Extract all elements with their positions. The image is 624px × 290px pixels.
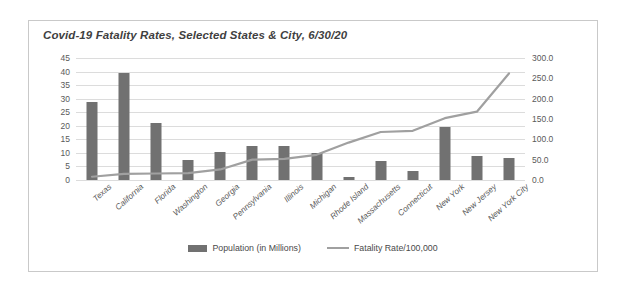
right-axis-tick-label: 150.0 <box>532 115 553 124</box>
chart-legend: Population (in Millions) Fatality Rate/1… <box>29 243 597 253</box>
right-axis-tick-label: 200.0 <box>532 95 553 104</box>
category-label: Florida <box>154 183 178 206</box>
left-axis-tick-label: 0 <box>65 176 70 185</box>
left-axis-tick-label: 15 <box>61 135 70 144</box>
bar-swatch-icon <box>188 245 207 252</box>
line-series <box>76 58 525 180</box>
left-axis-tick-label: 30 <box>61 95 70 104</box>
legend-label-population: Population (in Millions) <box>212 243 301 253</box>
plot-area: 051015202530354045 0.050.0100.0150.0200.… <box>76 58 525 180</box>
left-axis-tick-label: 5 <box>65 162 70 171</box>
left-axis-tick-label: 35 <box>61 81 70 90</box>
left-axis-tick-label: 40 <box>61 68 70 77</box>
left-axis-tick-label: 45 <box>61 54 70 63</box>
category-label: Georgia <box>215 183 242 209</box>
fatality-rate-line <box>92 73 509 176</box>
category-label: Illinois <box>284 183 306 204</box>
category-label: Michigan <box>308 183 338 211</box>
category-label: California <box>114 183 145 212</box>
right-axis-tick-label: 100.0 <box>532 135 553 144</box>
right-axis-tick-label: 0.0 <box>532 176 544 185</box>
right-axis-tick-label: 300.0 <box>532 54 553 63</box>
left-axis-tick-label: 20 <box>61 122 70 131</box>
chart-container: Covid-19 Fatality Rates, Selected States… <box>28 20 598 272</box>
right-axis-tick-label: 50.0 <box>532 156 549 165</box>
legend-item-population: Population (in Millions) <box>188 243 301 253</box>
left-axis-tick-label: 10 <box>61 149 70 158</box>
legend-item-fatality-rate: Fatality Rate/100,000 <box>327 243 438 253</box>
category-label: Washington <box>172 183 210 218</box>
category-label: Texas <box>92 183 114 204</box>
right-axis-tick-label: 250.0 <box>532 74 553 83</box>
chart-title: Covid-19 Fatality Rates, Selected States… <box>43 29 347 41</box>
left-axis-tick-label: 25 <box>61 108 70 117</box>
line-swatch-icon <box>327 247 349 249</box>
category-label: New York <box>435 183 466 212</box>
legend-label-fatality-rate: Fatality Rate/100,000 <box>354 243 438 253</box>
gridline <box>76 180 525 181</box>
